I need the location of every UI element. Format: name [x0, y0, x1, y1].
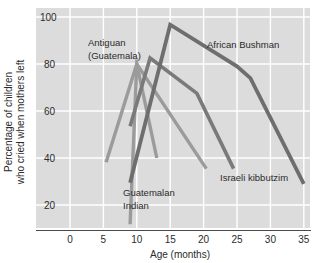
y-axis-title-line2: who cried when mothers left	[15, 60, 26, 186]
x-axis-title: Age (months)	[150, 249, 210, 260]
x-tick-label-30: 30	[265, 234, 277, 245]
x-tick-label-10: 10	[131, 234, 143, 245]
antiguan-label-line2: (Guatemala)	[88, 50, 141, 61]
line-chart: 100 80 60 40 20 Antiguan (Guatemala) Afr…	[0, 0, 315, 263]
african-bushman-label: African Bushman	[207, 39, 279, 50]
x-tick-label-5: 5	[101, 234, 107, 245]
y-tick-label-60: 60	[44, 106, 56, 117]
x-tick-label-15: 15	[165, 234, 177, 245]
guatemalan-indian-label-line1: Guatemalan	[123, 187, 175, 198]
x-tick-label-35: 35	[298, 234, 310, 245]
x-tick-label-0: 0	[67, 234, 73, 245]
antiguan-label-line1: Antiguan	[88, 37, 126, 48]
x-tick-label-20: 20	[198, 234, 210, 245]
guatemalan-indian-label-line2: Indian	[123, 200, 149, 211]
y-axis-title-line1: Percentage of children	[3, 72, 14, 172]
x-tick-label-25: 25	[231, 234, 243, 245]
y-tick-label-80: 80	[44, 59, 56, 70]
y-tick-label-40: 40	[44, 153, 56, 164]
x-axis-tick-labels: 0 5 10 15 20 25 30 35	[67, 234, 310, 245]
y-tick-label-100: 100	[40, 12, 57, 23]
y-tick-label-20: 20	[44, 200, 56, 211]
chart-container: 100 80 60 40 20 Antiguan (Guatemala) Afr…	[0, 0, 315, 263]
israeli-kibbutzim-label: Israeli kibbutzim	[220, 172, 288, 183]
